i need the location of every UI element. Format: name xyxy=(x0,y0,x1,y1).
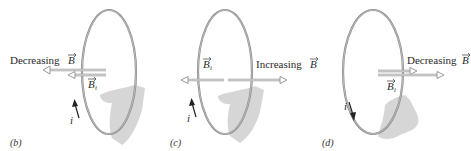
induced-symbol-b: B xyxy=(88,78,95,90)
induced-symbol-c: B xyxy=(203,58,210,70)
panel-b: Decreasing B B i i (b) xyxy=(10,10,145,149)
induced-symbol-d: B xyxy=(387,80,394,92)
induced-arrow-c xyxy=(181,77,224,84)
panel-d: Decreasing B B i i (d) xyxy=(322,10,470,149)
panel-label-d: (d) xyxy=(322,137,334,149)
current-symbol-d: i xyxy=(344,100,347,112)
current-symbol-c: i xyxy=(187,112,190,124)
field-arrow-c xyxy=(228,77,287,84)
loop xyxy=(198,10,252,134)
panel-label-c: (c) xyxy=(170,137,182,149)
field-symbol-c: B xyxy=(310,58,317,70)
induced-subscript-d: i xyxy=(394,86,396,94)
induced-arrow-d xyxy=(378,68,417,75)
field-label-d: Decreasing xyxy=(407,54,457,66)
panel-c: B i Increasing B i (c) xyxy=(170,10,318,149)
induced-subscript-b: i xyxy=(95,84,97,92)
hand-icon xyxy=(100,85,145,145)
induced-subscript-c: i xyxy=(210,64,212,72)
field-label-c: Increasing xyxy=(256,58,302,70)
loop xyxy=(82,10,136,134)
field-symbol-b: B xyxy=(68,54,75,66)
induced-arrow-b xyxy=(68,72,106,79)
field-label-b: Decreasing xyxy=(10,54,60,66)
field-symbol-d: B xyxy=(462,54,469,66)
faraday-lenz-diagram: Decreasing B B i i (b) B i xyxy=(0,0,471,151)
current-symbol-b: i xyxy=(70,114,73,126)
panel-label-b: (b) xyxy=(10,137,22,149)
hand-icon xyxy=(378,95,418,139)
